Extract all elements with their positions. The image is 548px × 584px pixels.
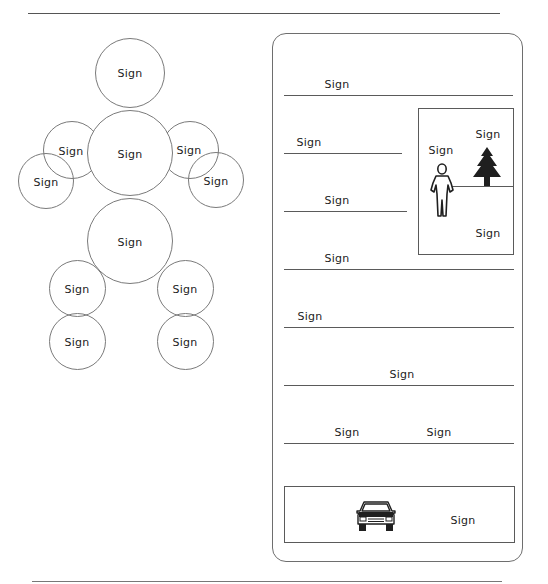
line-7-label-right: Sign <box>427 426 452 439</box>
vehicle-box <box>284 486 515 543</box>
right-upper-leg-label: Sign <box>173 283 198 296</box>
line-1 <box>284 95 513 96</box>
head-label: Sign <box>118 67 143 80</box>
tree-icon <box>467 147 507 187</box>
tree-label: Sign <box>476 128 501 141</box>
person-label: Sign <box>429 144 454 157</box>
vehicle-label: Sign <box>451 514 476 527</box>
right-lower-arm-label: Sign <box>204 175 229 188</box>
line-3 <box>284 211 407 212</box>
line-7-label-left: Sign <box>335 426 360 439</box>
line-6-label: Sign <box>390 368 415 381</box>
right-lower-leg-label: Sign <box>173 336 198 349</box>
line-5-label: Sign <box>298 310 323 323</box>
left-lower-arm-label: Sign <box>34 176 59 189</box>
line-5 <box>284 327 514 328</box>
line-2-label: Sign <box>297 136 322 149</box>
car-icon <box>354 500 398 532</box>
line-4 <box>284 269 514 270</box>
hip-label: Sign <box>118 236 143 249</box>
left-upper-leg-label: Sign <box>65 283 90 296</box>
line-4-label: Sign <box>325 252 350 265</box>
line-7 <box>284 443 514 444</box>
left-upper-arm-label: Sign <box>59 145 84 158</box>
left-lower-leg-label: Sign <box>65 336 90 349</box>
top-rule <box>28 13 500 14</box>
line-3-label: Sign <box>325 194 350 207</box>
bottom-rule <box>32 581 502 582</box>
torso-label: Sign <box>118 148 143 161</box>
person-icon <box>429 163 455 218</box>
line-1-label: Sign <box>325 78 350 91</box>
ground-label: Sign <box>476 227 501 240</box>
line-6 <box>284 385 514 386</box>
right-upper-arm-label: Sign <box>177 144 202 157</box>
line-2 <box>284 153 402 154</box>
